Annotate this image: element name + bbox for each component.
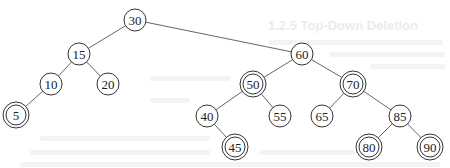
node-label: 40 xyxy=(201,109,214,124)
node-label: 45 xyxy=(229,140,242,155)
tree-node-65: 65 xyxy=(311,105,333,127)
node-label: 90 xyxy=(424,140,437,155)
tree-node-40: 40 xyxy=(196,105,218,127)
node-label: 10 xyxy=(45,77,58,92)
edge-60-70 xyxy=(311,60,341,78)
tree-node-50: 50 xyxy=(240,71,266,97)
node-label: 70 xyxy=(347,77,360,92)
tree-node-5: 5 xyxy=(3,102,29,128)
node-label: 65 xyxy=(316,109,329,124)
tree-diagram: 30156010205070540556585458090 xyxy=(0,0,450,168)
tree-node-55: 55 xyxy=(269,105,291,127)
tree-node-45: 45 xyxy=(222,134,248,160)
node-label: 5 xyxy=(13,108,20,123)
tree-node-10: 10 xyxy=(40,73,62,95)
tree-node-20: 20 xyxy=(97,73,119,95)
tree-node-85: 85 xyxy=(389,105,411,127)
node-label: 50 xyxy=(247,77,260,92)
node-label: 85 xyxy=(394,109,407,124)
edge-15-10 xyxy=(59,62,72,76)
edge-40-45 xyxy=(214,124,226,137)
node-label: 55 xyxy=(274,109,287,124)
node-label: 15 xyxy=(73,47,86,62)
node-label: 60 xyxy=(296,47,309,62)
edge-50-40 xyxy=(216,91,242,109)
edge-60-50 xyxy=(264,60,293,77)
edge-30-15 xyxy=(88,26,125,49)
tree-node-70: 70 xyxy=(340,71,366,97)
tree-node-15: 15 xyxy=(68,43,90,65)
edge-85-90 xyxy=(408,124,421,138)
edge-30-60 xyxy=(146,22,291,52)
node-label: 20 xyxy=(102,77,115,92)
edge-50-55 xyxy=(261,94,273,108)
tree-node-80: 80 xyxy=(356,134,382,160)
edge-70-85 xyxy=(364,91,391,109)
tree-nodes: 30156010205070540556585458090 xyxy=(3,9,443,160)
tree-node-60: 60 xyxy=(291,43,313,65)
tree-node-90: 90 xyxy=(417,134,443,160)
edge-70-65 xyxy=(330,93,344,108)
edge-10-5 xyxy=(26,91,43,106)
tree-node-30: 30 xyxy=(124,9,146,31)
node-label: 30 xyxy=(129,13,142,28)
node-label: 80 xyxy=(363,140,376,155)
edge-85-80 xyxy=(378,124,392,138)
edge-15-20 xyxy=(87,62,101,76)
